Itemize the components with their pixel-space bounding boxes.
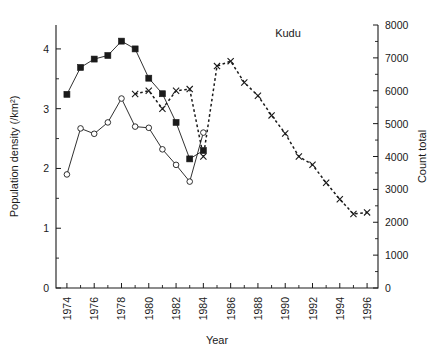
labels-group: 0123401000200030004000500060007000800019…: [8, 19, 428, 346]
x-tick-label: 1976: [88, 297, 100, 321]
data-point-marker: [255, 93, 261, 99]
x-tick-label: 1986: [225, 297, 237, 321]
data-point-marker: [146, 125, 152, 131]
y-tick-label: 1: [43, 222, 49, 234]
y-tick-label: 0: [43, 282, 49, 294]
data-point-marker: [268, 112, 274, 118]
data-point-marker: [364, 209, 370, 215]
data-point-marker: [296, 153, 302, 159]
data-point-marker: [173, 88, 179, 94]
axes-group: [56, 25, 378, 288]
y2-tick-label: 3000: [385, 183, 409, 195]
data-point-marker: [105, 120, 111, 126]
x-tick-label: 1978: [115, 297, 127, 321]
data-point-marker: [91, 131, 97, 137]
data-point-marker: [146, 75, 152, 81]
chart-figure: 0123401000200030004000500060007000800019…: [0, 0, 439, 346]
series-line-2: [135, 61, 367, 214]
y2-tick-label: 0: [385, 282, 391, 294]
y2-tick-label: 6000: [385, 85, 409, 97]
axis-frame: [56, 25, 378, 288]
data-point-marker: [323, 180, 329, 186]
x-tick-label: 1996: [361, 297, 373, 321]
x-tick-label: 1988: [252, 297, 264, 321]
y2-tick-label: 4000: [385, 151, 409, 163]
data-point-marker: [241, 79, 247, 85]
data-point-marker: [159, 106, 165, 112]
data-point-marker: [119, 96, 125, 102]
y2-tick-label: 5000: [385, 118, 409, 130]
y2-tick-label: 1000: [385, 249, 409, 261]
data-point-marker: [309, 162, 315, 168]
data-point-marker: [105, 52, 111, 58]
y-tick-label: 2: [43, 162, 49, 174]
x-tick-label: 1994: [334, 297, 346, 321]
data-point-marker: [160, 147, 166, 153]
x-tick-label: 1980: [143, 297, 155, 321]
y2-tick-label: 8000: [385, 19, 409, 31]
data-point-marker: [187, 179, 193, 185]
data-point-marker: [201, 130, 207, 136]
data-point-marker: [200, 153, 206, 159]
data-point-marker: [78, 64, 84, 70]
y2-axis-title: Count total: [416, 130, 428, 183]
data-point-marker: [118, 38, 124, 44]
y-tick-label: 3: [43, 103, 49, 115]
y-axis-title: Population density (/km²): [8, 96, 20, 218]
x-tick-label: 1984: [197, 297, 209, 321]
x-axis-title: Year: [206, 334, 229, 346]
chart-svg: 0123401000200030004000500060007000800019…: [0, 0, 439, 346]
data-point-marker: [282, 130, 288, 136]
data-point-marker: [64, 172, 70, 178]
data-point-marker: [78, 126, 84, 132]
data-point-marker: [132, 46, 138, 52]
x-tick-label: 1982: [170, 297, 182, 321]
data-point-marker: [64, 91, 70, 97]
y2-tick-label: 2000: [385, 216, 409, 228]
x-tick-label: 1992: [307, 297, 319, 321]
x-tick-label: 1974: [61, 297, 73, 321]
series-group: [64, 38, 370, 217]
data-point-marker: [159, 91, 165, 97]
chart-title: Kudu: [275, 27, 301, 39]
data-point-marker: [173, 162, 179, 168]
data-point-marker: [337, 196, 343, 202]
x-tick-label: 1990: [279, 297, 291, 321]
data-point-marker: [132, 124, 138, 130]
data-point-marker: [187, 156, 193, 162]
y-tick-label: 4: [43, 43, 49, 55]
data-point-marker: [91, 56, 97, 62]
series-line-0: [67, 41, 203, 159]
y2-tick-label: 7000: [385, 52, 409, 64]
data-point-marker: [173, 119, 179, 125]
